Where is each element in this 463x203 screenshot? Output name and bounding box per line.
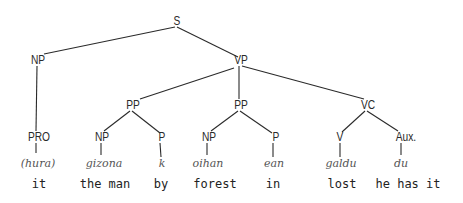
form-p-2: ean	[264, 158, 284, 169]
node-np-2: NP	[202, 131, 216, 143]
node-p-1: P	[159, 131, 166, 143]
gloss-np-2: forest	[193, 178, 236, 190]
form-pro: (hura)	[21, 158, 56, 169]
gloss-pro: it	[32, 178, 46, 190]
node-np-1: NP	[95, 131, 109, 143]
stem-p1	[160, 143, 161, 157]
node-pp-2: PP	[234, 99, 248, 111]
node-v: V	[337, 131, 344, 143]
edge-vc-aux	[367, 111, 398, 131]
edge-vc-v	[342, 111, 365, 132]
gloss-p-1: by	[154, 178, 168, 190]
node-p-2: P	[273, 131, 280, 143]
form-np-1: gizona	[86, 158, 123, 169]
gloss-v: lost	[328, 178, 357, 190]
edge-pp1-p	[132, 111, 160, 133]
edge-pp2-np	[211, 111, 238, 131]
node-vc: VC	[361, 99, 375, 111]
gloss-aux: he has it	[375, 178, 440, 190]
edge-s-vp	[177, 27, 238, 57]
node-np-subject: NP	[31, 54, 45, 66]
edge-pp1-np	[104, 111, 130, 131]
node-s: S	[174, 15, 181, 27]
form-p-1: k	[159, 158, 166, 169]
form-v: galdu	[325, 158, 356, 169]
edge-pp2-p	[240, 111, 272, 133]
node-pro: PRO	[28, 131, 50, 143]
tree-edges	[0, 0, 463, 203]
form-np-2: oihan	[193, 158, 224, 169]
form-aux: du	[394, 158, 408, 169]
node-vp: VP	[234, 54, 248, 66]
node-pp-1: PP	[126, 99, 140, 111]
node-aux: Aux.	[396, 131, 416, 143]
edge-s-np	[44, 27, 175, 54]
edge-vp-vc	[242, 66, 364, 99]
edge-np-pro	[36, 66, 37, 131]
gloss-p-2: in	[266, 178, 280, 190]
gloss-np-1: the man	[80, 178, 131, 190]
edge-vp-pp1	[140, 68, 234, 99]
